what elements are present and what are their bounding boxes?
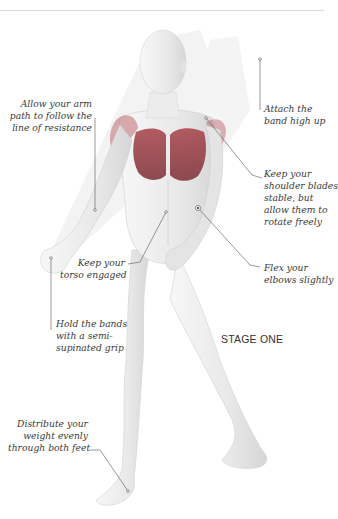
annotation-line: Keep your <box>264 168 338 180</box>
annotation-line: allow them to <box>264 204 338 216</box>
annotation-torso: Keep your torso engaged <box>60 257 125 281</box>
annotation-line: rotate freely <box>264 216 338 228</box>
annotation-line: path to follow the <box>6 110 92 122</box>
annotation-line: through both feet <box>8 442 88 454</box>
annotation-line: torso engaged <box>60 269 125 281</box>
head <box>140 30 186 94</box>
annotation-line: elbows slightly <box>264 274 334 286</box>
annotation-feet: Distribute your weight evenly through bo… <box>8 418 88 454</box>
annotation-elbows: Flex your elbows slightly <box>264 262 334 286</box>
annotation-line: Allow your arm <box>6 98 92 110</box>
annotation-line: Hold the bands <box>56 318 127 330</box>
front-leg <box>96 250 150 505</box>
annotation-grip: Hold the bands with a semi- supinated gr… <box>56 318 127 354</box>
annotation-line: weight evenly <box>8 430 88 442</box>
annotation-line: Attach the <box>264 103 325 115</box>
annotation-arm-path: Allow your arm path to follow the line o… <box>6 98 92 134</box>
annotation-attach-band: Attach the band high up <box>264 103 325 127</box>
annotation-line: Flex your <box>264 262 334 274</box>
annotation-line: line of resistance <box>6 122 92 134</box>
annotation-line: supinated grip <box>56 342 127 354</box>
annotation-line: stable, but <box>264 192 338 204</box>
annotation-shoulder-blades: Keep your shoulder blades stable, but al… <box>264 168 338 228</box>
annotation-line: band high up <box>264 115 325 127</box>
annotation-line: Keep your <box>60 257 125 269</box>
annotation-line: Distribute your <box>8 418 88 430</box>
back-leg <box>170 255 267 469</box>
annotation-line: shoulder blades <box>264 180 338 192</box>
stage-label: STAGE ONE <box>221 333 283 345</box>
annotation-line: with a semi- <box>56 330 127 342</box>
